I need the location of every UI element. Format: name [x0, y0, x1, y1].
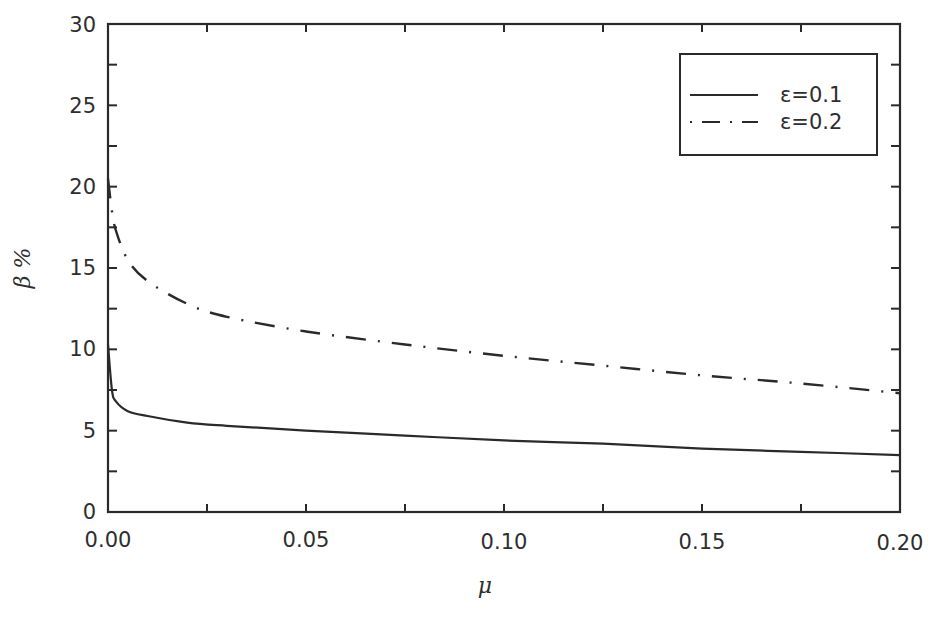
- x-tick-label: 0.05: [283, 528, 330, 552]
- y-tick-label: 5: [83, 419, 96, 443]
- x-axis-label: μ: [478, 573, 492, 598]
- y-tick-label: 30: [69, 13, 96, 37]
- legend-box: [680, 54, 877, 155]
- y-tick-label: 0: [83, 500, 96, 524]
- series-line-eps-0-2: [108, 179, 900, 394]
- x-tick-label: 0.00: [85, 528, 132, 552]
- y-axis-label: β %: [10, 248, 35, 290]
- chart-canvas: 0 5 10 15 20 25 30 0.00 0.05 0.10 0.15 0…: [0, 0, 944, 618]
- legend-label: ε=0.2: [780, 110, 842, 134]
- x-axis-tick-labels: 0.00 0.05 0.10 0.15 0.20: [85, 528, 924, 555]
- y-tick-label: 20: [69, 175, 96, 199]
- legend: ε=0.1 ε=0.2: [680, 54, 877, 155]
- x-tick-label: 0.15: [679, 530, 726, 554]
- x-tick-label: 0.20: [877, 531, 924, 555]
- y-tick-label: 25: [69, 94, 96, 118]
- y-tick-label: 10: [69, 337, 96, 361]
- legend-label: ε=0.1: [780, 83, 842, 107]
- series-line-eps-0-1: [108, 344, 900, 455]
- y-axis-tick-labels: 0 5 10 15 20 25 30: [69, 13, 96, 524]
- x-tick-label: 0.10: [481, 530, 528, 554]
- y-tick-label: 15: [69, 256, 96, 280]
